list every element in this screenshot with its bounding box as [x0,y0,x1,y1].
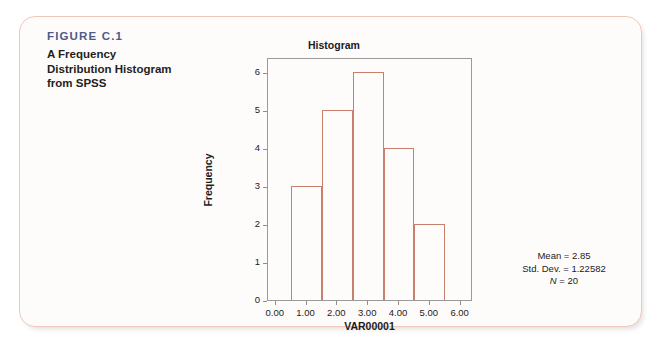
x-axis-title: VAR00001 [267,320,472,332]
x-axis-tick-label: 1.00 [290,307,322,318]
figure-caption-block: FIGURE C.1 A Frequency Distribution Hist… [47,29,177,91]
y-axis-tick-label: 1 [255,256,260,267]
stat-n-symbol: N [550,275,557,286]
y-axis-tick-label: 6 [255,66,260,77]
y-axis-tick-label: 3 [255,180,260,191]
x-axis-tick-mark [398,301,399,305]
x-axis-tick-mark [429,301,430,305]
stat-n: N = 20 [494,275,634,288]
histogram-bar [322,110,353,300]
x-axis-tick-mark [275,301,276,305]
x-axis-tick-mark [460,301,461,305]
histogram-bar [291,186,322,300]
figure-number-label: FIGURE C.1 [47,29,177,44]
y-axis-tick-label: 4 [255,142,260,153]
histogram-chart: Histogram Frequency 0123456 0.001.002.00… [196,22,636,322]
figure-caption-text: A Frequency Distribution Histogram from … [47,47,177,91]
histogram-bar [414,224,445,300]
x-axis-tick-label: 6.00 [444,307,476,318]
x-axis-tick-label: 3.00 [351,307,383,318]
x-axis-tick-mark [367,301,368,305]
stat-n-value: = 20 [557,275,578,286]
y-axis-tick-label: 0 [255,294,260,305]
x-axis-tick-mark [306,301,307,305]
histogram-bar [353,72,384,300]
plot-bars-container [268,59,471,300]
y-axis-title: Frequency [201,58,215,301]
figure-card: FIGURE C.1 A Frequency Distribution Hist… [19,16,642,327]
stat-std-dev: Std. Dev. = 1.22582 [494,263,634,276]
y-axis-title-label: Frequency [202,153,214,206]
plot-frame [267,58,472,301]
y-axis-tick-label: 2 [255,218,260,229]
y-axis-tick-label: 5 [255,104,260,115]
x-axis-tick-label: 5.00 [413,307,445,318]
histogram-bar [384,148,415,300]
stat-mean: Mean = 2.85 [494,250,634,263]
x-axis-tick-label: 4.00 [382,307,414,318]
y-axis: 0123456 [222,58,267,301]
statistics-annotation: Mean = 2.85 Std. Dev. = 1.22582 N = 20 [494,250,634,288]
x-axis-tick-mark [336,301,337,305]
x-axis-tick-label: 0.00 [259,307,291,318]
chart-title: Histogram [196,39,472,51]
x-axis-tick-label: 2.00 [320,307,352,318]
